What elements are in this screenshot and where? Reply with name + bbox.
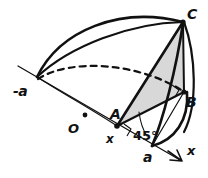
vertex-dot-a: [114, 123, 120, 129]
label-pos-a: a: [143, 150, 152, 164]
geometry-diagram: [0, 0, 208, 178]
front-rim-curve-left: [37, 77, 117, 126]
x-axis-arrowhead: [168, 150, 182, 161]
label-vertex-c: C: [187, 7, 197, 21]
label-vertex-b: B: [186, 95, 197, 109]
label-origin: O: [68, 122, 79, 135]
label-angle-45: 45°: [133, 129, 158, 142]
figure-canvas: C -a O A x 45° B a x: [0, 0, 208, 178]
label-axis-x-near: x: [106, 133, 114, 145]
label-vertex-a: A: [110, 107, 121, 121]
vertex-dot-o: [83, 113, 88, 118]
label-axis-x-far: x: [187, 144, 195, 157]
label-neg-a: -a: [13, 84, 27, 98]
triangle-edge-c-b: [183, 22, 184, 92]
vertex-dot-c: [180, 19, 185, 24]
